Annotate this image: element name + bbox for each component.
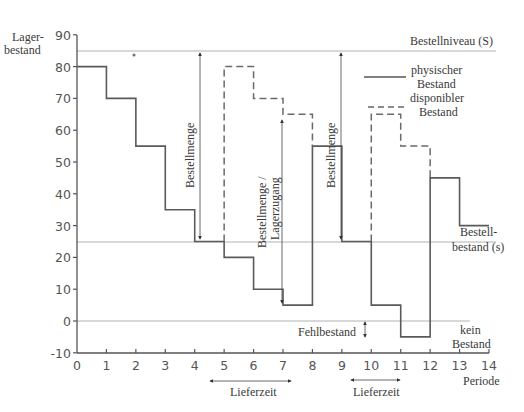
inventory-step-chart: Lager- bestand 9080706050403020100-10 01… (0, 0, 524, 412)
x-tick-label: 13 (452, 358, 468, 373)
x-axis-label: Periode (463, 374, 500, 388)
reorder-point-label-line1: Bestell- (460, 225, 497, 239)
y-tick-label: 40 (55, 187, 71, 202)
disposable-stock-segment (371, 114, 430, 241)
y-tick-label: 10 (55, 282, 71, 297)
y-tick-label: -10 (51, 346, 71, 361)
y-tick-label: 20 (55, 250, 71, 265)
order-level-label: Bestellniveau (S) (410, 34, 493, 48)
x-tick-label: 1 (102, 358, 110, 373)
x-tick-label: 11 (393, 358, 409, 373)
y-tick-label: 0 (63, 314, 71, 329)
legend-physical-line1: physischer (411, 63, 462, 77)
legend-disposable-line2: Bestand (419, 105, 458, 119)
x-tick-label: 14 (481, 358, 497, 373)
y-tick-label: 30 (55, 219, 71, 234)
order-qty-label-2b: Lagerzugang (268, 177, 282, 240)
y-tick-label: 70 (55, 91, 71, 106)
x-tick-label: 5 (220, 358, 228, 373)
x-tick-label: 8 (308, 358, 316, 373)
lead-time-label-2: Lieferzeit (353, 385, 400, 399)
x-tick-label: 2 (132, 358, 140, 373)
y-axis-label-line2: bestand (4, 43, 41, 57)
stray-mark (132, 53, 135, 56)
x-tick-label: 12 (422, 358, 438, 373)
legend-physical-line2: Bestand (417, 77, 456, 91)
legend-disposable-line1: disponibler (410, 91, 464, 105)
no-stock-label-line2: Bestand (452, 337, 491, 351)
order-qty-label-3: Bestellmenge (324, 123, 338, 188)
reorder-point-label-line2: bestand (s) (452, 240, 504, 254)
x-tick-label: 3 (161, 358, 169, 373)
y-axis-label-line1: Lager- (12, 30, 44, 44)
no-stock-label-line1: kein (460, 323, 481, 337)
x-tick-label: 4 (191, 358, 199, 373)
order-qty-label-2a: Bestellmenge / (255, 176, 269, 248)
legend: physischer Bestand disponibler Bestand (364, 63, 464, 119)
y-tick-label: 90 (55, 28, 71, 43)
y-tick-label: 50 (55, 155, 71, 170)
y-tick-label: 80 (55, 60, 71, 75)
order-qty-label-1: Bestellmenge (183, 123, 197, 188)
y-ticks: 9080706050403020100-10 (51, 28, 77, 361)
x-tick-label: 0 (73, 358, 81, 373)
x-tick-label: 7 (279, 358, 287, 373)
shortage-label: Fehlbestand (298, 325, 356, 339)
x-tick-label: 9 (338, 358, 346, 373)
x-tick-label: 6 (250, 358, 258, 373)
y-tick-label: 60 (55, 123, 71, 138)
lead-time-label-1: Lieferzeit (230, 385, 277, 399)
x-tick-label: 10 (363, 358, 379, 373)
